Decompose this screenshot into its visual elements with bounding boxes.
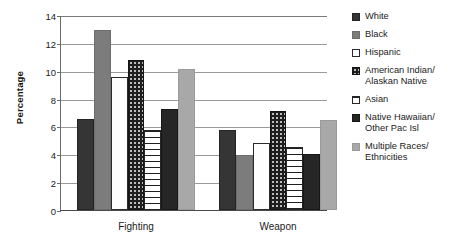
legend-item: Black [352, 29, 455, 40]
y-axis-tick-label: 10 [45, 66, 56, 77]
legend: WhiteBlackHispanicAmerican Indian/Alaska… [352, 11, 455, 170]
legend-item: Hispanic [352, 47, 455, 58]
legend-swatch [352, 114, 360, 122]
bar [77, 119, 94, 210]
bar [303, 154, 320, 210]
bar [286, 147, 303, 210]
plot-area: 02468101214 FightingWeapon [60, 16, 327, 211]
bar [320, 120, 337, 210]
legend-swatch [352, 49, 360, 57]
bar [236, 155, 253, 210]
bars [77, 16, 195, 210]
bars [219, 16, 337, 210]
legend-label: American Indian/Alaskan Native [365, 65, 435, 87]
x-axis-category-label: Fighting [77, 221, 195, 232]
legend-label: Black [365, 29, 388, 40]
y-axis-tick-label: 8 [51, 94, 56, 105]
legend-item: Asian [352, 94, 455, 105]
y-axis-tick-label: 14 [45, 11, 56, 22]
legend-label: Multiple Races/Ethnicities [365, 141, 429, 163]
y-axis-title: Percentage [14, 43, 25, 153]
legend-label: Asian [365, 94, 388, 105]
legend-swatch [352, 67, 360, 75]
legend-swatch [352, 13, 360, 21]
bar [144, 130, 161, 210]
bar [270, 111, 287, 211]
legend-item: Native Hawaiian/Other Pac Isl [352, 112, 455, 134]
y-axis-tick-label: 4 [51, 150, 56, 161]
bar-chart: Percentage 02468101214 FightingWeapon Wh… [0, 0, 457, 250]
legend-swatch [352, 31, 360, 39]
bar-group: Weapon [219, 16, 337, 210]
bar [161, 109, 178, 210]
x-axis-category-label: Weapon [219, 221, 337, 232]
bar [219, 130, 236, 210]
bar-group: Fighting [77, 16, 195, 210]
bar [178, 69, 195, 210]
legend-label: Native Hawaiian/Other Pac Isl [365, 112, 435, 134]
legend-swatch [352, 143, 360, 151]
bar [128, 60, 145, 210]
y-axis-tick-label: 2 [51, 178, 56, 189]
y-axis-tick-label: 12 [45, 38, 56, 49]
y-axis-tick-label: 0 [51, 206, 56, 217]
y-axis-tick-mark [57, 211, 61, 212]
y-axis-tick-label: 6 [51, 122, 56, 133]
bar [111, 77, 128, 210]
legend-item: White [352, 11, 455, 22]
legend-swatch [352, 96, 360, 104]
legend-item: Multiple Races/Ethnicities [352, 141, 455, 163]
legend-label: Hispanic [365, 47, 401, 58]
legend-label: White [365, 11, 389, 22]
bar-groups: FightingWeapon [61, 16, 327, 210]
bar [253, 143, 270, 210]
legend-item: American Indian/Alaskan Native [352, 65, 455, 87]
bar [94, 30, 111, 210]
